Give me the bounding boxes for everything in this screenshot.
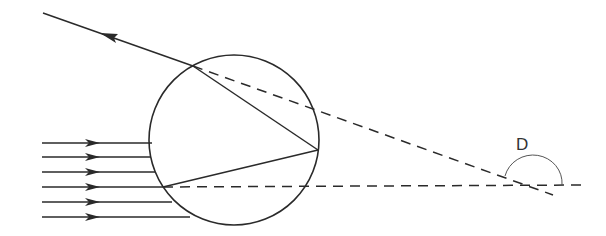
exit-ray [43, 13, 193, 66]
dashed-exit-extension [193, 66, 553, 195]
raindrop-diagram: D [0, 0, 606, 236]
incident-arrowheads [85, 139, 100, 221]
incident-rays [42, 143, 190, 217]
dashed-incident-extension [163, 185, 584, 187]
deviation-angle-label: D [516, 135, 528, 154]
refracted-ray [163, 150, 318, 187]
reflected-ray [193, 66, 318, 150]
